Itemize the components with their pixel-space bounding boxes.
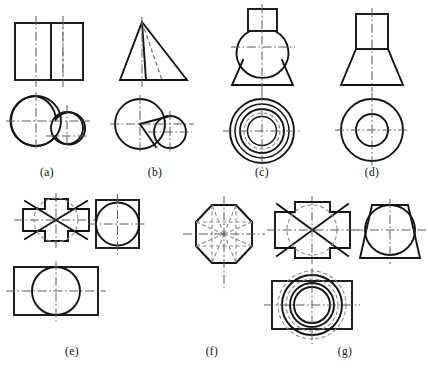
figure-d: (d): [335, 8, 409, 179]
drawing-sheet: (a) (b): [0, 0, 428, 372]
figure-e-side-view: [88, 194, 147, 254]
figure-a-front-view: [15, 16, 83, 87]
figure-b-front-view: [120, 17, 187, 87]
figure-f-top-view: [183, 196, 265, 290]
figure-e-front-view: [6, 261, 106, 321]
radial-line-4: [224, 222, 252, 234]
figure-e: (e): [6, 193, 147, 358]
rectangle-outline: [15, 23, 83, 80]
figure-c-front-view: [231, 4, 295, 92]
figure-c-top-view: [223, 92, 301, 170]
figure-a-top-view: [6, 92, 90, 151]
figure-c-caption: (c): [255, 166, 269, 179]
radial-line-1: [196, 222, 224, 234]
figure-g-top-view: [264, 268, 360, 344]
figure-g: (g): [264, 196, 426, 358]
radial-line-5: [224, 234, 252, 246]
figure-e-caption: (e): [65, 345, 79, 358]
figure-b: (b): [110, 17, 194, 179]
figure-g-front-view: [267, 196, 358, 264]
figure-b-caption: (b): [148, 166, 163, 179]
figure-g-side-view: [354, 199, 426, 264]
figure-c: (c): [223, 4, 301, 179]
figure-a: (a): [6, 16, 90, 179]
radial-line-2: [212, 205, 224, 234]
figure-d-caption: (d): [365, 166, 380, 179]
figure-a-caption: (a): [40, 166, 54, 179]
figure-d-front-view: [341, 8, 403, 92]
radial-line-6: [224, 234, 236, 263]
radial-line-3: [224, 205, 236, 234]
figure-f: (f): [183, 196, 265, 358]
figure-e-top-view: [14, 193, 98, 248]
technical-drawing-canvas: (a) (b): [0, 0, 428, 372]
figure-b-top-view: [110, 95, 194, 154]
figure-d-top-view: [335, 93, 409, 167]
triangle-outline: [120, 22, 187, 80]
figure-g-caption: (g): [338, 345, 353, 358]
figure-f-caption: (f): [206, 345, 219, 358]
radial-line-8: [196, 234, 224, 246]
radial-line-7: [212, 234, 224, 263]
